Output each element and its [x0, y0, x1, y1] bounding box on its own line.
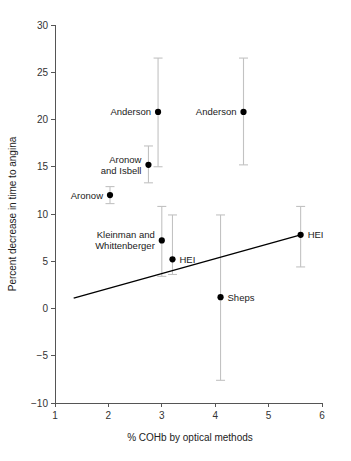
y-axis-tick-label: 25: [37, 67, 49, 78]
data-point-marker: [217, 294, 223, 300]
y-axis-tick-label: 10: [37, 209, 49, 220]
y-axis-tick-label: 30: [37, 20, 49, 31]
x-axis-tick-label: 3: [159, 410, 165, 421]
x-axis-tick-label: 2: [106, 410, 112, 421]
x-axis-tick-label: 5: [266, 410, 272, 421]
y-axis-tick-label: 0: [42, 303, 48, 314]
data-point-label: HEI: [308, 229, 324, 240]
y-axis-tick-label: −5: [37, 350, 49, 361]
y-axis-tick-label: 15: [37, 161, 49, 172]
data-point-marker: [240, 109, 246, 115]
data-point-label: Anderson: [196, 106, 237, 117]
plot-background: [0, 0, 351, 461]
data-point-label: Aronow: [71, 190, 103, 201]
data-point-label: Kleinman andWhittenberger: [95, 229, 155, 251]
data-point-marker: [159, 237, 165, 243]
x-axis-tick-label: 6: [319, 410, 325, 421]
y-axis-tick-label: 20: [37, 114, 49, 125]
data-point-marker: [107, 192, 113, 198]
y-axis-title: Percent decrease in time to angina: [7, 136, 18, 291]
data-point-marker: [169, 256, 175, 262]
data-point-label: Anderson: [110, 106, 151, 117]
data-point-label: HEI: [179, 254, 195, 265]
x-axis-tick-label: 4: [212, 410, 218, 421]
x-axis-title: % COHb by optical methods: [127, 432, 253, 443]
y-axis-tick-label: 5: [42, 256, 48, 267]
scatter-plot: −10−5051015202530123456 AndersonAnderson…: [0, 0, 351, 461]
y-axis-tick-label: −10: [31, 398, 48, 409]
data-point-marker: [145, 162, 151, 168]
data-point-label: Sheps: [228, 292, 255, 303]
x-axis-tick-label: 1: [52, 410, 58, 421]
data-point-marker: [298, 232, 304, 238]
data-point-marker: [155, 109, 161, 115]
chart-figure: −10−5051015202530123456 AndersonAnderson…: [0, 0, 351, 461]
